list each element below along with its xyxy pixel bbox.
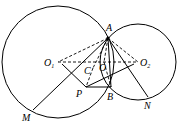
label-o2: O2 [140,57,150,69]
segment-o1-p [62,64,86,87]
segment-a-b [108,38,111,87]
line-a-m [33,38,108,110]
point-a [106,36,109,39]
label-c: C [84,65,91,76]
label-a: A [105,22,113,33]
label-o: O [99,62,106,73]
geometry-diagram: A B P C O M N O1 O2 [0,0,187,125]
label-b: B [107,91,113,102]
circle-o2 [100,24,176,100]
label-o1: O1 [44,57,54,69]
label-m: M [21,112,31,123]
label-p: P [75,88,82,99]
label-n: N [143,100,152,111]
